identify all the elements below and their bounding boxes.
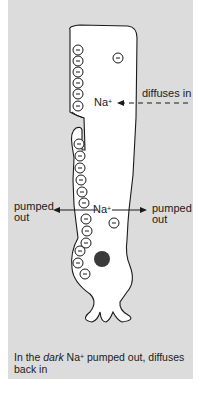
nucleus <box>94 251 110 267</box>
figure-caption: In the dark Na+ pumped out, diffuses bac… <box>14 352 192 375</box>
label-diffuses-in: diffuses in <box>142 88 191 99</box>
label-pumped-out-left: pumped out <box>14 201 54 223</box>
label-pumped-out-right: pumped out <box>152 203 192 225</box>
pumped-out-right-arrowhead <box>140 207 147 213</box>
label-na-top: Na+ <box>94 97 112 108</box>
label-na-mid: Na+ <box>93 204 111 215</box>
photoreceptor-diagram <box>0 0 206 394</box>
pumped-out-left-arrowhead <box>53 207 60 213</box>
